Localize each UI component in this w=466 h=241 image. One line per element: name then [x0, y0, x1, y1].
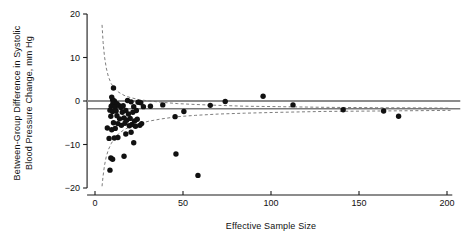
data-point: [396, 114, 401, 119]
x-axis-tick-label: 200: [439, 198, 454, 208]
data-point: [108, 114, 113, 119]
data-point: [120, 103, 125, 108]
data-point: [141, 104, 146, 109]
data-point: [113, 108, 118, 113]
data-point: [381, 108, 386, 113]
data-point: [181, 109, 186, 114]
y-axis-tick-label: 20: [70, 9, 80, 19]
data-point: [195, 173, 200, 178]
x-axis-tick-label: 150: [351, 198, 366, 208]
x-axis-tick-label: 100: [263, 198, 278, 208]
data-point: [135, 117, 140, 122]
data-point: [131, 140, 136, 145]
data-point: [128, 130, 133, 135]
data-point: [115, 135, 120, 140]
x-axis-tick-label: 50: [178, 198, 188, 208]
y-axis-tick-label: −10: [65, 140, 80, 150]
data-point: [134, 108, 139, 113]
data-point: [110, 157, 115, 162]
x-axis-title: Effective Sample Size: [226, 221, 317, 231]
data-point: [113, 126, 118, 131]
data-point: [128, 99, 133, 104]
data-point: [290, 102, 295, 107]
data-point: [123, 131, 128, 136]
data-point: [260, 94, 265, 99]
data-point: [107, 167, 112, 172]
data-point: [340, 107, 345, 112]
y-axis-title-line2: Blood Pressure Change, mm Hg: [24, 36, 34, 170]
funnel-plot-figure: 20100−10−20 050100150200 Between-Group D…: [0, 0, 466, 241]
x-axis-tick-label: 0: [92, 198, 97, 208]
y-axis-tick-label: 10: [70, 53, 80, 63]
data-point: [208, 103, 213, 108]
data-point: [111, 85, 116, 90]
y-axis-tick-label: 0: [75, 96, 80, 106]
data-point: [160, 102, 165, 107]
scatter-plot-canvas: 20100−10−20 050100150200 Between-Group D…: [0, 0, 466, 241]
data-point: [173, 151, 178, 156]
data-point: [139, 121, 144, 126]
y-axis-title-line1: Between-Group Difference in Systolic: [12, 25, 22, 180]
plot-background: [0, 0, 466, 241]
data-point: [172, 114, 177, 119]
data-point: [148, 104, 153, 109]
y-axis-tick-label: −20: [65, 183, 80, 193]
data-point: [223, 99, 228, 104]
data-point: [106, 136, 111, 141]
data-point: [121, 154, 126, 159]
